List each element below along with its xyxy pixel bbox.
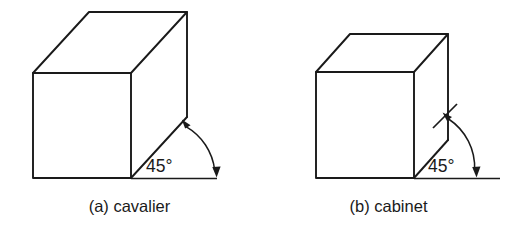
cavalier-front-face-fill <box>33 73 131 178</box>
cavalier-arc-arrowhead-upper <box>182 120 191 129</box>
cavalier-arc-arrowhead-lower <box>212 166 220 177</box>
caption-cabinet: (b) cabinet <box>259 198 518 215</box>
cavalier-angle-arc <box>186 127 215 171</box>
panel-cabinet: 45° <box>316 34 500 179</box>
figure-drawing-canvas: 45° <box>0 0 518 230</box>
caption-cavalier: (a) cavalier <box>0 198 259 215</box>
cabinet-angle-label: 45° <box>428 156 454 176</box>
cabinet-arc-arrowhead-lower <box>472 166 480 177</box>
cabinet-front-face-fill <box>316 72 414 178</box>
oblique-projection-figure: 45° <box>0 0 518 230</box>
panel-cavalier: 45° <box>33 12 221 179</box>
cavalier-angle-label: 45° <box>146 156 172 176</box>
